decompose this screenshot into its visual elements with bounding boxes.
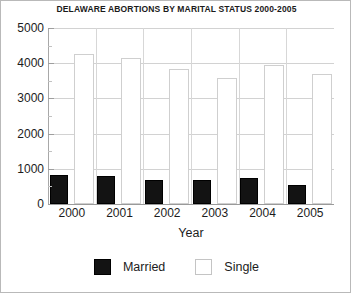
y-tick-major-5000 xyxy=(48,28,54,29)
bar-single-2000 xyxy=(74,54,94,204)
bar-married-2002 xyxy=(145,180,163,204)
plot-area xyxy=(48,28,334,204)
bar-group-2000 xyxy=(48,28,96,204)
chart-title: DELAWARE ABORTIONS BY MARITAL STATUS 200… xyxy=(1,4,351,14)
bar-single-2002 xyxy=(169,69,189,204)
bar-single-2001 xyxy=(121,58,141,204)
gridline-0 xyxy=(48,204,334,205)
y-tick-label-2000: 2000 xyxy=(2,128,44,140)
y-tick-major-0 xyxy=(48,204,54,205)
y-tick-label-5000: 5000 xyxy=(2,22,44,34)
bar-married-2003 xyxy=(193,180,211,204)
bar-group-2005 xyxy=(286,28,334,204)
bar-married-2000 xyxy=(50,175,68,204)
bar-single-2003 xyxy=(217,78,237,204)
y-tick-major-2000 xyxy=(48,134,54,135)
bar-married-2005 xyxy=(288,185,306,204)
bar-married-2004 xyxy=(240,178,258,204)
x-tick-label-2005: 2005 xyxy=(297,207,324,219)
chart-card: DELAWARE ABORTIONS BY MARITAL STATUS 200… xyxy=(0,0,351,293)
x-tick-label-2003: 2003 xyxy=(201,207,228,219)
legend-entry-single[interactable]: Single xyxy=(195,259,259,275)
y-tick-minor-1500 xyxy=(48,151,52,152)
bar-group-2003 xyxy=(191,28,239,204)
x-tick-label-2004: 2004 xyxy=(249,207,276,219)
x-tick-label-2001: 2001 xyxy=(106,207,133,219)
legend-label-single: Single xyxy=(224,261,259,274)
y-tick-major-3000 xyxy=(48,98,54,99)
bar-group-2002 xyxy=(143,28,191,204)
y-tick-major-4000 xyxy=(48,63,54,64)
y-tick-label-4000: 4000 xyxy=(2,57,44,69)
y-axis-tick-labels: 010002000300040005000 xyxy=(1,28,44,204)
legend-swatch-single xyxy=(195,259,212,275)
x-tick-label-2002: 2002 xyxy=(154,207,181,219)
x-axis-tick-labels: 200020012002200320042005 xyxy=(48,207,334,225)
y-tick-minor-500 xyxy=(48,186,52,187)
y-tick-major-1000 xyxy=(48,169,54,170)
bar-married-2001 xyxy=(97,176,115,204)
x-axis-title: Year xyxy=(48,226,334,240)
bar-single-2005 xyxy=(312,74,332,204)
y-tick-label-1000: 1000 xyxy=(2,163,44,175)
legend-entry-married[interactable]: Married xyxy=(94,259,165,275)
legend-label-married: Married xyxy=(123,261,165,274)
y-tick-label-3000: 3000 xyxy=(2,92,44,104)
y-tick-label-0: 0 xyxy=(2,198,44,210)
y-tick-minor-4500 xyxy=(48,46,52,47)
y-tick-minor-2500 xyxy=(48,116,52,117)
bar-single-2004 xyxy=(264,65,284,204)
bar-group-2004 xyxy=(239,28,287,204)
bar-group-2001 xyxy=(96,28,144,204)
y-tick-minor-3500 xyxy=(48,81,52,82)
chart-legend: MarriedSingle xyxy=(1,259,351,275)
legend-swatch-married xyxy=(94,259,111,275)
x-tick-label-2000: 2000 xyxy=(58,207,85,219)
